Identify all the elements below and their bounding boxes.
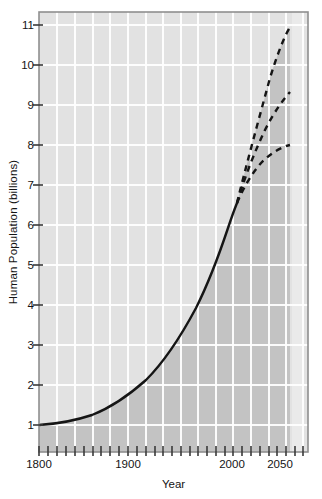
y-tick-label: 1 bbox=[12, 419, 34, 431]
y-tick-label: 5 bbox=[12, 259, 34, 271]
plot-area bbox=[0, 0, 322, 499]
y-tick-label: 4 bbox=[12, 299, 34, 311]
y-tick-label: 9 bbox=[12, 99, 34, 111]
x-tick-label: 2000 bbox=[209, 458, 255, 470]
x-tick-label: 2050 bbox=[257, 458, 303, 470]
chart-figure: Human Population (billions) 11 10 9 8 7 … bbox=[0, 0, 322, 499]
y-axis-tick-labels: 11 10 9 8 7 6 5 4 3 2 1 bbox=[10, 0, 34, 499]
y-tick-label: 10 bbox=[12, 59, 34, 71]
y-tick-label: 7 bbox=[12, 179, 34, 191]
y-tick-label: 6 bbox=[12, 219, 34, 231]
x-tick-label: 1800 bbox=[16, 458, 62, 470]
x-tick-label: 1900 bbox=[105, 458, 151, 470]
y-tick-label: 3 bbox=[12, 339, 34, 351]
y-tick-label: 8 bbox=[12, 139, 34, 151]
y-tick-label: 2 bbox=[12, 379, 34, 391]
y-tick-label: 11 bbox=[12, 19, 34, 31]
x-axis-label: Year bbox=[39, 478, 308, 490]
